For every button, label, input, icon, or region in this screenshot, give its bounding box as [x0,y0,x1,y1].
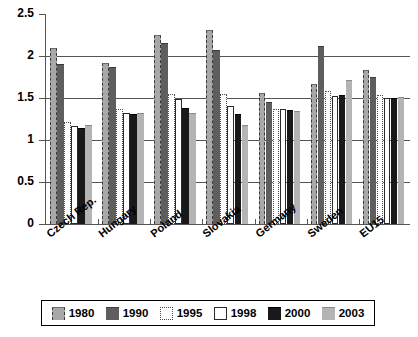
y-axis-tick [39,140,45,141]
x-axis-group-tick [359,219,360,224]
bar-hungary-1990 [109,67,116,224]
bar-slovakia-1980 [206,30,213,224]
x-axis-group-tick [307,219,308,224]
swatch-1995-icon [160,307,173,320]
x-axis-category-labels: Czech Rep.HungaryPolandSlovakiaGermanySw… [0,228,418,290]
y-axis-tick [39,14,45,15]
y-axis-tick-label: 0 [0,218,34,228]
x-axis-group-tick [255,219,256,224]
bar-eu15-1995 [377,95,384,224]
chart-legend: 198019901995199820002003 [41,300,375,326]
bar-germany-1980 [259,93,266,224]
x-axis-group-tick [98,219,99,224]
swatch-1998-icon [214,307,227,320]
bar-group [255,14,307,224]
bar-germany-1995 [273,109,280,224]
legend-item-1995[interactable]: 1995 [160,307,203,320]
y-axis-tick [39,98,45,99]
bar-group [359,14,411,224]
swatch-2003-icon [322,307,335,320]
bar-sweden-1990 [318,46,325,224]
bar-slovakia-2003 [242,125,249,224]
legend-label: 1995 [177,307,203,319]
bar-sweden-1995 [325,91,332,224]
legend-item-1998[interactable]: 1998 [214,307,257,320]
bar-hungary-1995 [116,109,123,224]
legend-item-2003[interactable]: 2003 [322,307,365,320]
legend-label: 2000 [285,307,311,319]
swatch-1980-icon [52,307,65,320]
bar-eu15-2003 [398,97,405,224]
bar-group [98,14,150,224]
bar-eu15-1980 [363,70,370,224]
legend-item-1980[interactable]: 1980 [52,307,95,320]
bar-slovakia-1990 [213,50,220,224]
bar-group [202,14,254,224]
legend-label: 2003 [339,307,365,319]
legend-item-2000[interactable]: 2000 [268,307,311,320]
swatch-1990-icon [106,307,119,320]
y-axis-tick [39,182,45,183]
plot-area [45,14,410,224]
x-axis-group-tick [202,219,203,224]
bar-germany-1990 [266,102,273,224]
bar-sweden-1980 [311,84,318,224]
bar-group [307,14,359,224]
bar-eu15-1990 [370,77,377,224]
y-axis-labels: 2.521.510.50 [0,14,40,224]
bar-slovakia-1995 [220,94,227,224]
chart-container: 2.521.510.50 Czech Rep.HungaryPolandSlov… [0,0,418,337]
bar-hungary-2003 [137,113,144,224]
bar-poland-1995 [168,94,175,224]
bar-eu15-1998 [384,98,391,224]
legend-item-1990[interactable]: 1990 [106,307,149,320]
y-axis-tick [39,224,45,225]
y-axis-tick [39,56,45,57]
bar-poland-1980 [154,35,161,224]
bar-poland-2000 [182,108,189,224]
legend-label: 1980 [69,307,95,319]
bar-sweden-2000 [339,95,346,224]
legend-label: 1990 [123,307,149,319]
bar-hungary-1980 [102,63,109,224]
bar-eu15-2000 [391,98,398,224]
swatch-2000-icon [268,307,281,320]
bar-czech-rep-1980 [50,48,57,224]
y-axis-tick-label: 1.5 [0,92,34,102]
bar-poland-1990 [161,43,168,224]
bar-poland-1998 [175,99,182,224]
bar-czech-rep-1990 [57,64,64,224]
y-axis-tick-label: 0.5 [0,176,34,186]
bar-poland-2003 [189,113,196,224]
x-axis-line [45,224,410,225]
y-axis-tick-label: 2 [0,50,34,60]
y-axis-tick-label: 1 [0,134,34,144]
legend-label: 1998 [231,307,257,319]
x-axis-group-tick [150,219,151,224]
bar-sweden-2003 [346,80,353,224]
bar-group [150,14,202,224]
bar-groups [46,14,410,224]
y-axis-tick-label: 2.5 [0,8,34,18]
